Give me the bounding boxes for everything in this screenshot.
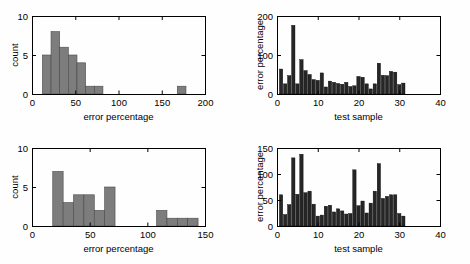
x-tick-label: 0 [275,97,280,108]
bar [324,206,327,226]
x-tick-label: 10 [313,229,324,240]
histogram-bar [188,218,198,226]
figure-four-subplots: 0501001502000510error percentagecount 01… [0,0,470,264]
histogram-bar [51,32,60,94]
x-tick-label: 100 [140,229,156,240]
histogram-bar [42,55,51,94]
x-tick-label: 150 [198,229,214,240]
bar [402,216,405,226]
bar [389,195,392,226]
x-axis-title: test sample [334,111,383,122]
subplot-bottom-left-histogram: 0501001500510error percentagecount [0,132,235,264]
bar [288,205,291,226]
y-tick-label: 0 [23,89,28,100]
histogram-bar [60,47,69,94]
y-axis-title: error percentage [254,20,265,90]
bar [324,87,327,94]
y-axis-title: count [9,175,20,199]
bar [320,73,323,94]
x-tick-label: 100 [111,97,127,108]
bar [377,164,380,226]
histogram-bar [74,195,84,226]
bar [365,213,368,226]
bar [381,198,384,226]
histogram-bar [167,218,177,226]
bar [361,77,364,94]
x-tick-label: 50 [70,97,81,108]
bar [328,81,331,94]
chart-canvas-top-left: 0501001502000510error percentagecount [0,0,235,132]
bar [304,71,307,94]
x-tick-label: 30 [394,229,405,240]
x-tick-label: 200 [198,97,214,108]
y-tick-label: 10 [17,11,28,22]
bar [349,214,352,226]
bar [345,214,348,226]
bar [308,191,311,226]
histogram-bar [94,210,104,226]
x-axis-title: error percentage [83,111,153,122]
x-tick-label: 30 [394,97,405,108]
bar [345,82,348,94]
bar [341,84,344,94]
bar [349,87,352,94]
x-tick-label: 0 [30,229,35,240]
bar-series-top-right [279,25,405,94]
x-tick-label: 150 [154,97,170,108]
histogram-bar [86,86,95,94]
histogram-bar [94,86,103,94]
x-axis-title: test sample [334,243,383,254]
chart-canvas-bottom-right: 010203040050100150test sampleerror perce… [235,132,470,264]
histogram-bar [53,171,63,226]
histogram-bar [105,187,115,226]
subplot-top-right-bar: 0102030400100200test sampleerror percent… [235,0,470,132]
bar [296,84,299,94]
bar [373,84,376,94]
subplot-top-left-histogram: 0501001502000510error percentagecount [0,0,235,132]
bar [336,209,339,226]
y-tick-label: 0 [23,221,28,232]
bar [332,82,335,94]
bar [377,63,380,94]
bar-series-top-left [42,32,186,94]
x-tick-label: 40 [435,229,446,240]
x-tick-label: 40 [435,97,446,108]
x-tick-label: 20 [354,97,365,108]
y-axis-title: count [9,43,20,67]
histogram-bar [177,218,187,226]
histogram-bar [157,210,167,226]
bar [288,76,291,94]
bar [308,75,311,95]
bar [341,211,344,226]
bar [373,191,376,226]
bar [300,60,303,94]
bar [332,212,335,226]
chart-canvas-bottom-left: 0501001500510error percentagecount [0,132,235,264]
bar [296,194,299,226]
bar [389,71,392,94]
bar [385,76,388,94]
bar [304,193,307,226]
histogram-bar [63,203,73,226]
bar [394,195,397,226]
bar [353,170,356,226]
x-tick-label: 50 [85,229,96,240]
x-axis-title: error percentage [83,243,153,254]
histogram-bar [68,55,77,94]
histogram-bar [177,86,186,94]
bar [402,83,405,94]
bar [336,83,339,94]
bar-series-bottom-left [53,171,198,226]
bar [394,72,397,94]
y-tick-label: 0 [268,221,273,232]
subplot-bottom-right-bar: 010203040050100150test sampleerror perce… [235,132,470,264]
bar [320,215,323,226]
bar [361,201,364,226]
x-tick-label: 10 [313,97,324,108]
bar [381,75,384,94]
bar [353,86,356,94]
chart-canvas-top-right: 0102030400100200test sampleerror percent… [235,0,470,132]
bar [292,158,295,226]
bar [369,203,372,226]
histogram-bar [77,63,86,94]
